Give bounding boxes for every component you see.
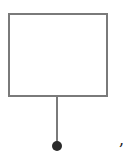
- rectangle-node: [8, 13, 108, 97]
- terminal-dot: [52, 141, 62, 151]
- trailing-punctuation: ,: [119, 132, 124, 148]
- connector-line: [56, 95, 58, 143]
